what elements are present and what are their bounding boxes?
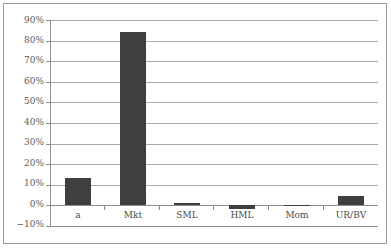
bar-chart-figure: 90% 80% 70% 60% 50% 40% 30% 20% 10% 0% −… xyxy=(0,0,391,248)
x-axis-tick-label: a xyxy=(53,210,103,220)
x-axis-tick-label: SML xyxy=(162,210,212,220)
x-axis-tick-label: UR/BV xyxy=(326,210,376,220)
x-axis-labels: a Mkt SML HML Mom UR/BV xyxy=(0,0,391,248)
x-axis-tick-label: HML xyxy=(217,210,267,220)
x-axis-tick-label: Mom xyxy=(272,210,322,220)
x-axis-tick-label: Mkt xyxy=(108,210,158,220)
